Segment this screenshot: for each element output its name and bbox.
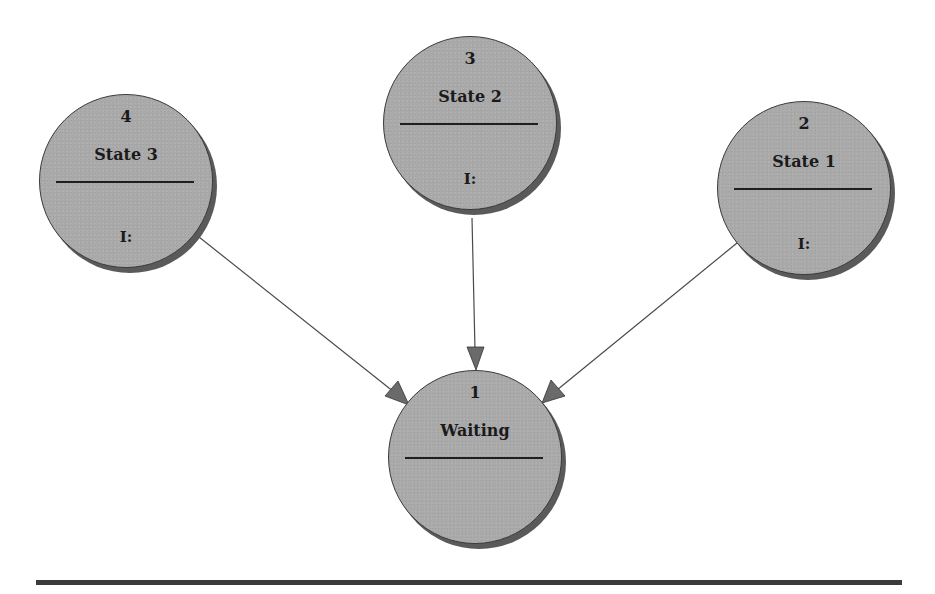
edge-state1-to-waiting: [542, 243, 737, 403]
state-invariant: I:: [40, 228, 212, 246]
state-number: 4: [40, 107, 212, 126]
state-diagram-canvas: 4 State 3 I: 3 State 2 I: 2 State 1 I: 1…: [0, 0, 935, 594]
state-number: 2: [718, 114, 890, 133]
state-name: State 1: [718, 152, 890, 171]
state-number: 1: [389, 383, 561, 402]
state-invariant: I:: [384, 170, 556, 188]
state-name: Waiting: [389, 421, 561, 440]
state-number: 3: [384, 49, 556, 68]
state-name: State 3: [40, 145, 212, 164]
arrowhead-icon: [467, 347, 484, 370]
state-divider: [734, 188, 872, 190]
state-divider: [56, 181, 194, 183]
state-node-state-3[interactable]: 4 State 3 I:: [39, 94, 213, 268]
state-node-state-1[interactable]: 2 State 1 I:: [717, 101, 891, 275]
state-divider: [400, 123, 538, 125]
state-node-waiting[interactable]: 1 Waiting: [388, 370, 562, 544]
edge-state3-to-waiting: [199, 237, 409, 405]
state-invariant: I:: [718, 235, 890, 253]
bottom-rule-divider: [36, 580, 902, 585]
state-divider: [405, 457, 543, 459]
state-name: State 2: [384, 87, 556, 106]
edge-state2-to-waiting: [467, 218, 484, 370]
state-node-state-2[interactable]: 3 State 2 I:: [383, 36, 557, 210]
